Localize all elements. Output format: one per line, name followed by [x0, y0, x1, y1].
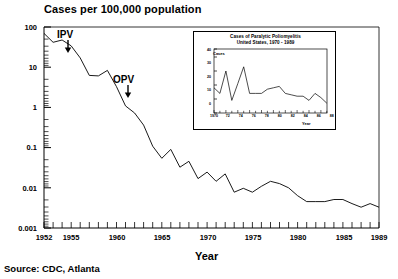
annotation-ipv: IPV	[57, 29, 73, 40]
main-chart-x-ticks	[44, 222, 379, 228]
opv-arrow-icon	[125, 85, 131, 98]
y-tick-label-0-001: 0.001	[5, 224, 37, 233]
x-axis-title: Year	[195, 250, 218, 262]
inset-chart-y-ticks	[214, 49, 217, 113]
x-tick-label-1970: 1970	[193, 233, 223, 242]
inset-chart-plot	[194, 32, 337, 131]
inset-chart-line	[214, 67, 327, 103]
inset-chart-x-ticks	[214, 110, 327, 113]
annotation-opv: OPV	[113, 74, 134, 85]
y-tick-label-0-1: 0.1	[5, 143, 37, 152]
inset-chart-axes	[214, 49, 327, 113]
main-chart-y-ticks	[44, 27, 51, 228]
x-tick-label-1980: 1980	[283, 233, 313, 242]
x-tick-label-1960: 1960	[102, 233, 132, 242]
x-tick-label-1985: 1985	[329, 233, 359, 242]
source-note: Source: CDC, Atlanta	[4, 263, 100, 274]
x-tick-label-1955: 1955	[56, 233, 86, 242]
x-tick-label-1952: 1952	[29, 233, 59, 242]
x-tick-label-1989: 1989	[364, 233, 394, 242]
polio-incidence-figure: Cases per 100,000 population	[0, 0, 398, 279]
inset-chart: Cases of Paralytic Poliomyelitis United …	[193, 31, 336, 130]
y-tick-label-0-01: 0.01	[5, 184, 37, 193]
y-tick-label-100: 100	[5, 23, 37, 32]
x-tick-label-1975: 1975	[238, 233, 268, 242]
y-tick-label-10: 10	[5, 63, 37, 72]
y-tick-label-1: 1	[5, 103, 37, 112]
x-tick-label-1965: 1965	[147, 233, 177, 242]
